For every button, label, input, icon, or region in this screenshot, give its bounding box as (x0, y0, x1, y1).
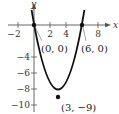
x-tick-label-8: 8 (95, 29, 101, 39)
x-axis-label: x (113, 20, 118, 30)
x-tick-label-2: 2 (47, 29, 53, 39)
point-root (80, 23, 84, 27)
y-tick-label-neg10: −10 (11, 100, 30, 110)
point-label-root: (6, 0) (81, 43, 108, 54)
y-axis-label: y (30, 0, 37, 9)
y-tick-label-neg4: −4 (17, 52, 31, 62)
leader-line-root (83, 27, 86, 41)
point-label-vertex: (3, −9) (61, 102, 96, 113)
y-tick-label-neg6: −6 (17, 68, 31, 78)
parabola-graph: −2 2 4 8 −4 −6 −8 −10 x y (0, 0) (6, 0) … (0, 0, 119, 114)
x-axis-arrow-icon (105, 23, 111, 27)
point-origin (32, 23, 36, 27)
point-label-origin: (0, 0) (41, 43, 68, 54)
x-tick-label-4: 4 (63, 29, 69, 39)
y-tick-label-neg8: −8 (17, 84, 31, 94)
point-vertex (56, 95, 60, 99)
x-tick-label-neg2: −2 (7, 29, 20, 39)
